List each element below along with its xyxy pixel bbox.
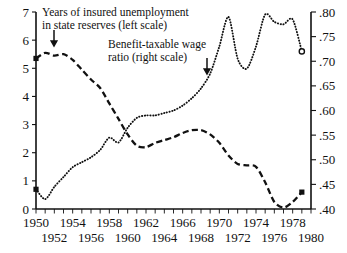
ratio-annotation-line-1: Benefit-taxable wage xyxy=(108,38,206,51)
ratio-annotation-arrow-down-icon xyxy=(204,58,210,74)
x-axis-tick-label: 1962 xyxy=(133,215,159,230)
x-axis-tick-label: 1966 xyxy=(170,215,197,230)
x-axis-tick-label: 1958 xyxy=(96,215,122,230)
plot-area: 01234567.40.45.50.55.60.65.70.75.8019501… xyxy=(23,5,336,245)
series-end-marker xyxy=(299,190,304,195)
left-axis-tick-label: 6 xyxy=(23,33,30,48)
x-axis-tick-label: 1952 xyxy=(41,230,67,245)
x-axis-tick-label: 1954 xyxy=(60,215,87,230)
right-axis-tick-label: .40 xyxy=(319,202,335,217)
series-line-1 xyxy=(36,53,302,208)
right-axis-tick-label: .80 xyxy=(319,5,335,20)
x-axis-tick-label: 1968 xyxy=(188,230,214,245)
series-start-marker xyxy=(33,187,38,192)
annotations-layer: Years of insured unemploymentin state re… xyxy=(42,6,210,74)
reserves-annotation-line-1: Years of insured unemployment xyxy=(42,6,190,19)
x-axis-tick-label: 1956 xyxy=(78,230,105,245)
x-axis-tick-label: 1960 xyxy=(115,230,141,245)
left-axis-tick-label: 3 xyxy=(23,117,30,132)
reserves-annotation-arrow-down-icon xyxy=(51,30,57,46)
left-axis-tick-label: 2 xyxy=(23,145,30,160)
right-axis-tick-label: .50 xyxy=(319,152,335,167)
series-end-marker xyxy=(299,49,304,54)
right-axis-tick-label: .75 xyxy=(319,29,335,44)
ratio-annotation-line-2: ratio (right scale) xyxy=(108,51,187,64)
right-axis-tick-label: .55 xyxy=(319,128,335,143)
x-axis-tick-label: 1970 xyxy=(206,215,232,230)
unemployment-reserves-chart: 01234567.40.45.50.55.60.65.70.75.8019501… xyxy=(0,0,347,253)
right-axis-tick-label: .70 xyxy=(319,54,335,69)
left-axis-tick-label: 5 xyxy=(23,61,30,76)
x-axis-tick-label: 1972 xyxy=(225,230,251,245)
right-axis-tick-label: .65 xyxy=(319,78,335,93)
markers-layer xyxy=(33,49,304,195)
x-axis-tick-label: 1978 xyxy=(280,215,306,230)
x-axis-tick-label: 1950 xyxy=(23,215,49,230)
left-axis-tick-label: 1 xyxy=(23,173,30,188)
series-start-marker xyxy=(33,56,38,61)
x-axis-tick-label: 1976 xyxy=(261,230,288,245)
left-axis-tick-label: 7 xyxy=(23,5,30,20)
x-axis-tick-label: 1974 xyxy=(243,215,270,230)
right-axis-tick-label: .45 xyxy=(319,177,335,192)
x-axis-tick-label: 1964 xyxy=(151,230,178,245)
chart-container: 01234567.40.45.50.55.60.65.70.75.8019501… xyxy=(0,0,347,253)
right-axis-tick-label: .60 xyxy=(319,103,335,118)
reserves-annotation-line-2: in state reserves (left scale) xyxy=(42,19,167,32)
x-axis-tick-label: 1980 xyxy=(298,230,324,245)
left-axis-tick-label: 4 xyxy=(23,89,30,104)
